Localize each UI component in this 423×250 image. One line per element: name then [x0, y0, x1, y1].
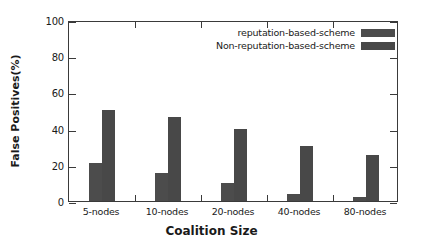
legend-item-reputation-based-scheme: reputation-based-scheme	[210, 26, 395, 39]
x-axis-tick-label: 20-nodes	[212, 206, 255, 217]
y-axis-tick	[390, 58, 397, 59]
x-axis-tick-label: 5-nodes	[83, 206, 120, 217]
y-axis-tick	[69, 22, 76, 23]
y-axis-tick-label: 0	[58, 198, 64, 208]
x-axis-tick	[267, 195, 268, 201]
x-axis-tick	[135, 195, 136, 201]
legend-swatch-series-2	[361, 42, 395, 50]
y-axis-tick-label: 100	[46, 17, 65, 27]
bar	[300, 146, 313, 201]
y-axis-tick-label: 60	[52, 89, 64, 99]
y-axis-tick	[390, 22, 397, 23]
x-axis-tick	[201, 22, 202, 28]
y-axis-tick	[390, 167, 397, 168]
bar	[287, 194, 300, 201]
bar-chart: False Positives(%) 020406080100 5-nodes1…	[0, 0, 423, 250]
x-axis-tick-label: 80-nodes	[344, 206, 387, 217]
y-axis-tick-label: 40	[52, 126, 64, 136]
y-axis-tick	[390, 131, 397, 132]
y-axis-title: False Positives(%)	[10, 54, 22, 167]
y-axis-tick	[69, 58, 76, 59]
bar	[221, 183, 234, 201]
y-axis-tick	[69, 131, 76, 132]
legend-swatch-series-1	[361, 29, 395, 37]
y-axis-tick-label: 80	[52, 53, 64, 63]
x-axis-tick-label: 10-nodes	[146, 206, 189, 217]
bar	[155, 173, 168, 201]
legend: reputation-based-scheme Non-reputation-b…	[210, 26, 395, 52]
y-axis-tick	[390, 203, 397, 204]
legend-label: Non-reputation-based-scheme	[216, 40, 355, 51]
bar	[89, 163, 102, 201]
x-axis-title: Coalition Size	[0, 224, 423, 238]
bar	[234, 129, 247, 201]
legend-item-non-reputation-based-scheme: Non-reputation-based-scheme	[210, 39, 395, 52]
bar	[102, 110, 115, 201]
legend-label: reputation-based-scheme	[238, 27, 355, 38]
y-axis-tick	[390, 94, 397, 95]
y-axis-tick-label: 20	[52, 162, 64, 172]
bar	[168, 117, 181, 201]
x-axis-tick-label: 40-nodes	[278, 206, 321, 217]
y-axis-tick	[69, 167, 76, 168]
y-axis-tick	[69, 203, 76, 204]
x-axis-tick	[333, 195, 334, 201]
bar	[366, 155, 379, 201]
y-axis-tick	[69, 94, 76, 95]
bar	[353, 197, 366, 201]
x-axis-tick	[201, 195, 202, 201]
x-axis-tick	[135, 22, 136, 28]
